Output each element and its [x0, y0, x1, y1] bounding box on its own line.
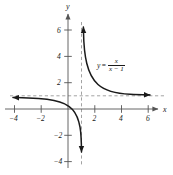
- plot-area: [0, 0, 173, 175]
- equation-fraction: x x − 1: [108, 58, 125, 73]
- y-tick-label--2: −2: [54, 132, 63, 140]
- rational-function-graph: −4 −2 2 4 6 6 4 2 −2 −4 x y y = x x − 1: [0, 0, 173, 175]
- y-tick-label-2: 2: [57, 79, 61, 87]
- y-tick-label-6: 6: [57, 27, 61, 35]
- y-axis-label: y: [66, 3, 70, 11]
- equation-denominator: x − 1: [108, 66, 125, 73]
- x-tick-label--4: −4: [9, 115, 18, 123]
- curve-left-branch: [17, 98, 82, 152]
- x-tick-label--2: −2: [36, 115, 45, 123]
- equation-lhs: y: [97, 62, 100, 70]
- y-tick-label--4: −4: [54, 158, 63, 166]
- x-tick-label-4: 4: [119, 115, 123, 123]
- x-axis-label: x: [163, 106, 167, 114]
- x-tick-label-6: 6: [146, 115, 150, 123]
- x-tick-label-2: 2: [93, 115, 97, 123]
- equation-label: y = x x − 1: [97, 58, 125, 73]
- y-tick-label-4: 4: [57, 53, 61, 61]
- equation-equals: =: [101, 62, 106, 70]
